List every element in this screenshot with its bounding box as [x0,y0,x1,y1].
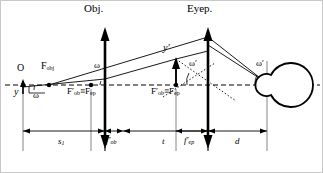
label-focal-front-objective: Fobj [41,61,54,71]
dimension-fep-subscript: ep [188,139,194,145]
angle-arc-omega-prime-left [187,73,189,85]
focus-pair-1-first: F′ [67,86,74,96]
label-objective: Obj. [84,3,103,14]
label-eyepiece: Eyep. [187,3,212,14]
label-angle-omega-prime-left: ω′ [189,59,197,68]
optical-diagram-figure: Obj. Eyep. O y Fobj ω ω y′ ω′ ω′ F′ob≡Fe… [0,0,323,173]
dimension-label-t: t [162,137,165,146]
dimension-label-fep: f′ep [184,136,194,145]
dot-point-O [21,83,25,87]
dimension-fob-subscript: ob [110,139,116,145]
label-point-o: O [17,63,24,73]
label-image-height-y-prime: y′ [163,43,170,53]
dimension-label-s1: s1 [58,137,65,146]
dimension-label-d: d [235,137,240,146]
marginal-ray-upper [49,37,208,85]
dimension-label-fob: f′ob [106,136,116,145]
focal-front-obj-subscript: obj [47,65,55,71]
label-angle-omega-mid: ω [94,61,100,70]
label-focus-pair-2: F′ob≡Fep [151,87,180,96]
focus-pair-2-first: F′ [151,86,158,96]
eye-icon [255,63,313,107]
label-focus-pair-1: F′ob≡Fep [67,87,96,96]
dotted-ray-2 [176,59,236,101]
focus-pair-2-second-subscript: ep [174,90,180,96]
label-object-height-y: y [14,87,18,97]
dimension-ruler [23,129,267,134]
dimension-s1-subscript: 1 [62,140,65,146]
chief-ray-to-image [105,59,176,79]
focus-pair-1-second-subscript: ep [90,90,96,96]
dot-point-Fobj [47,83,51,87]
angle-arc-omega-mid [100,81,101,85]
label-angle-omega-under: ω [33,91,39,100]
label-angle-omega-prime-right: ω′ [256,59,264,68]
